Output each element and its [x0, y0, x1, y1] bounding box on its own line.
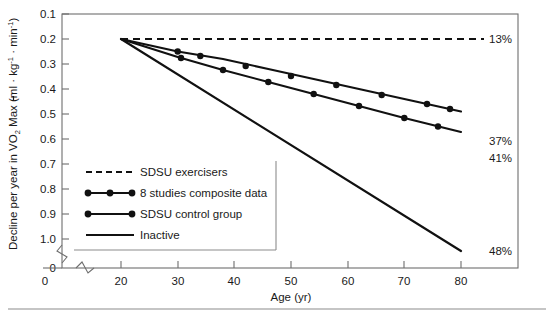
y-axis-title-o: O — [7, 134, 19, 143]
annotation-label: 48% — [489, 245, 512, 257]
legend-marker-dot — [85, 211, 92, 218]
legend-marker-dot — [85, 190, 92, 197]
legend-label: 8 studies composite data — [140, 187, 268, 199]
annotation-41-percent: 41% — [489, 152, 512, 164]
legend-label: SDSU control group — [140, 208, 242, 220]
x-axis-title: Age (yr) — [271, 291, 312, 303]
annotation-label: 41% — [489, 152, 512, 164]
x-tick-label: 60 — [342, 275, 355, 287]
x-tick-label: 40 — [228, 275, 241, 287]
y-tick-label: 0.9 — [40, 208, 56, 220]
x-tick-label: 70 — [398, 275, 411, 287]
y-tick-label: 0.3 — [40, 58, 56, 70]
annotation-37-percent: 37% — [489, 135, 512, 147]
legend-marker-dot — [129, 211, 136, 218]
x-tick-label: 30 — [172, 275, 185, 287]
legend-label: SDSU exercisers — [140, 166, 228, 178]
annotation-48-percent: 48% — [489, 245, 512, 257]
x-tick-label: 0 — [42, 275, 48, 287]
y-axis-title-mid2: · min — [7, 28, 19, 57]
x-tick-label: 20 — [115, 275, 128, 287]
x-tick-label: 80 — [455, 275, 468, 287]
y-tick-label: 0.8 — [40, 183, 56, 195]
y-tick-label: 0.7 — [40, 158, 56, 170]
legend-marker-dot — [129, 190, 136, 197]
chart-figure: 0.1 0.2 0.3 0.4 0.5 0.6 0.7 0.8 0.9 1.0 … — [0, 0, 554, 315]
y-axis-title-sup1: -1 — [6, 57, 15, 64]
y-tick-label: 0.6 — [40, 133, 56, 145]
legend-label: Inactive — [140, 229, 180, 241]
y-tick-label: 0.5 — [40, 108, 56, 120]
y-tick-label: 0.2 — [40, 33, 56, 45]
y-axis-title-pre: Decline per year in V — [7, 143, 19, 250]
annotation-13-percent: 13% — [489, 33, 512, 45]
annotation-label: 13% — [489, 33, 512, 45]
y-axis-title-post: ) — [7, 18, 19, 22]
decline-vo2max-line-chart: 0.1 0.2 0.3 0.4 0.5 0.6 0.7 0.8 0.9 1.0 … — [0, 0, 554, 315]
y-tick-label: 1.0 — [40, 233, 56, 245]
annotation-label: 37% — [489, 135, 512, 147]
x-tick-label: 50 — [285, 275, 298, 287]
y-tick-label: 0.4 — [40, 83, 57, 95]
legend-marker-dot — [107, 190, 114, 197]
y-axis-title-sup2: -1 — [6, 22, 15, 29]
y-tick-label: 0.1 — [40, 8, 56, 20]
